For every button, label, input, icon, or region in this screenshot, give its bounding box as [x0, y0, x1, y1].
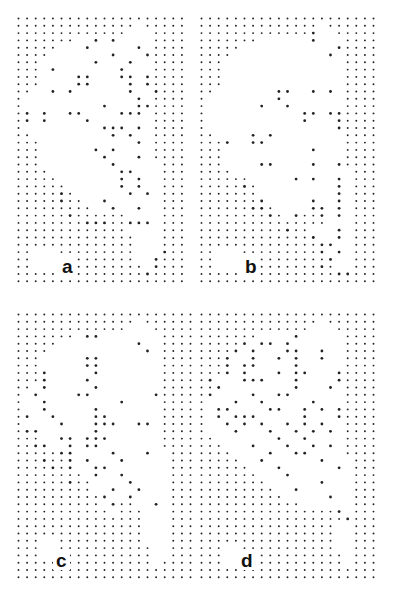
panel-d: d — [200, 313, 385, 603]
panel-label-a: a — [59, 257, 76, 276]
panel-b: b — [200, 17, 385, 307]
dot-grid-b — [200, 17, 385, 307]
panel-label-b: b — [242, 257, 260, 276]
panel-a: a — [17, 17, 197, 307]
panel-label-d: d — [238, 551, 256, 570]
panel-c: c — [17, 313, 202, 603]
dot-grid-a — [17, 17, 197, 307]
dot-grid-c — [17, 313, 202, 603]
panel-label-c: c — [53, 551, 70, 570]
dot-grid-d — [200, 313, 385, 603]
